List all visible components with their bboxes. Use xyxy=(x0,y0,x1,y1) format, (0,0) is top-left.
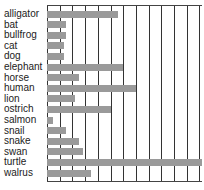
category-label: snail xyxy=(4,126,25,136)
bar-dog xyxy=(47,53,64,60)
category-label: ostrich xyxy=(4,104,33,114)
category-label: swan xyxy=(4,147,27,157)
bar-cat xyxy=(47,42,64,49)
category-label: salmon xyxy=(4,115,36,125)
bar-human xyxy=(47,85,136,92)
category-label: horse xyxy=(4,73,29,83)
grid-line xyxy=(85,6,86,181)
bar-bat xyxy=(47,21,66,28)
bar-snake xyxy=(47,138,79,145)
bar-walrus xyxy=(47,170,91,177)
grid-line xyxy=(136,6,137,181)
grid-line xyxy=(123,6,124,181)
bar-salmon xyxy=(47,117,53,124)
category-label: bat xyxy=(4,20,18,30)
grid-line xyxy=(174,6,175,181)
grid-line xyxy=(98,6,99,181)
category-label: alligator xyxy=(4,9,39,19)
grid-line xyxy=(161,6,162,181)
x-axis xyxy=(47,184,202,190)
bar-elephant xyxy=(47,64,123,71)
category-label: dog xyxy=(4,51,21,61)
category-label: bullfrog xyxy=(4,30,37,40)
category-label: elephant xyxy=(4,62,42,72)
category-label: lion xyxy=(4,94,20,104)
bar-bullfrog xyxy=(47,32,66,39)
bar-swan xyxy=(47,148,83,155)
category-label: cat xyxy=(4,41,17,51)
lifespan-bar-chart: alligatorbatbullfrogcatdogelephanthorseh… xyxy=(0,0,204,190)
category-label: snake xyxy=(4,136,31,146)
bar-lion xyxy=(47,95,75,102)
category-label: walrus xyxy=(4,168,33,178)
bar-horse xyxy=(47,74,79,81)
plot-area xyxy=(47,5,202,182)
category-label: turtle xyxy=(4,157,26,167)
bar-snail xyxy=(47,127,66,134)
bar-ostrich xyxy=(47,106,111,113)
grid-line xyxy=(199,6,200,181)
bar-alligator xyxy=(47,11,118,18)
grid-line xyxy=(111,6,112,181)
bar-turtle xyxy=(47,159,202,166)
category-label: human xyxy=(4,83,35,93)
grid-line xyxy=(149,6,150,181)
grid-line xyxy=(187,6,188,181)
